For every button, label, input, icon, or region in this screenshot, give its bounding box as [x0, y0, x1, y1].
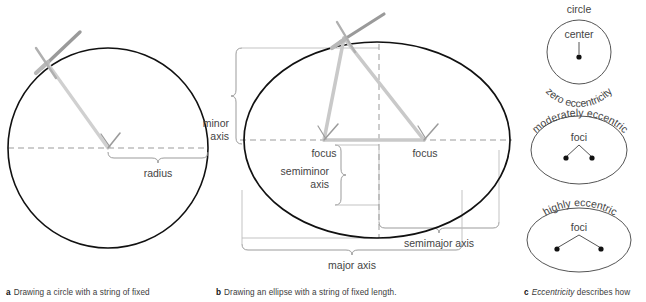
caption-b: bDrawing an ellipse with a string of fix… — [216, 288, 397, 298]
caption-a: aDrawing a circle with a string of fixed — [6, 288, 150, 298]
high-focus-point-left — [554, 246, 559, 251]
eccentricity-item-circle: circle center zero eccentricity — [544, 3, 615, 109]
caption-c-letter: c — [524, 288, 529, 297]
minor-axis-brace — [231, 48, 242, 144]
panel-c-drawing: circle center zero eccentricity moderate… — [512, 0, 646, 275]
moderate-foci-leader-lines — [566, 145, 592, 157]
high-focus-point-right — [598, 246, 603, 251]
caption-a-text: Drawing a circle with a string of fixed — [14, 288, 150, 297]
focus-pin-right — [424, 124, 438, 140]
center-label: center — [564, 28, 594, 40]
circle-top-label: circle — [567, 3, 592, 15]
caption-b-letter: b — [216, 288, 221, 297]
semimajor-axis-label: semimajor axis — [404, 237, 474, 249]
string-line — [48, 64, 108, 148]
semiminor-axis-label-line1: semiminor — [281, 165, 330, 177]
string-pencil-to-right-focus — [344, 38, 424, 140]
pencil-crossbar — [337, 22, 355, 52]
high-foci-leader-lines — [557, 235, 601, 248]
panel-b-ellipse: minor axis focus focus semiminor axis se… — [212, 0, 512, 302]
moderate-focus-point-left — [563, 155, 568, 160]
focus-label-left: focus — [311, 147, 336, 159]
center-point — [576, 54, 581, 59]
radius-brace — [108, 152, 208, 163]
zero-eccentricity-textpath: zero eccentricity — [544, 84, 615, 109]
semiminor-axis-label-line2: axis — [310, 178, 329, 190]
panel-a-drawing: radius — [0, 0, 212, 275]
minor-axis-label-line1: minor — [203, 117, 230, 129]
caption-b-text: Drawing an ellipse with a string of fixe… — [224, 288, 396, 297]
panel-c-eccentricity: circle center zero eccentricity moderate… — [512, 0, 646, 302]
zero-eccentricity-curved-label: zero eccentricity — [544, 84, 615, 109]
major-axis-label: major axis — [328, 259, 376, 271]
caption-a-letter: a — [6, 288, 11, 297]
panel-b-drawing: minor axis focus focus semiminor axis se… — [212, 0, 512, 275]
semiminor-axis-brace — [335, 145, 346, 205]
moderate-focus-point-right — [589, 155, 594, 160]
panel-a-circle: radius — [0, 0, 212, 302]
highly-eccentric-textpath: highly eccentric — [541, 196, 620, 217]
radius-label: radius — [144, 167, 173, 179]
eccentricity-item-high: highly eccentric foci — [527, 196, 631, 272]
caption-c: cEccentricity describes how — [524, 288, 630, 298]
highly-eccentric-curved-label: highly eccentric — [541, 196, 620, 217]
string-left-focus-to-pencil — [324, 38, 344, 140]
eccentricity-item-moderate: moderately eccentric foci — [529, 106, 630, 184]
caption-c-rest: describes how — [577, 288, 630, 297]
moderate-foci-label: foci — [571, 131, 587, 143]
high-foci-label: foci — [571, 221, 587, 233]
pencil-crossbar — [36, 48, 56, 78]
caption-c-italic: Eccentricity — [532, 288, 575, 297]
high-ellipse-outline — [527, 208, 631, 272]
minor-axis-label-line2: axis — [210, 130, 229, 142]
focus-label-right: focus — [412, 147, 437, 159]
